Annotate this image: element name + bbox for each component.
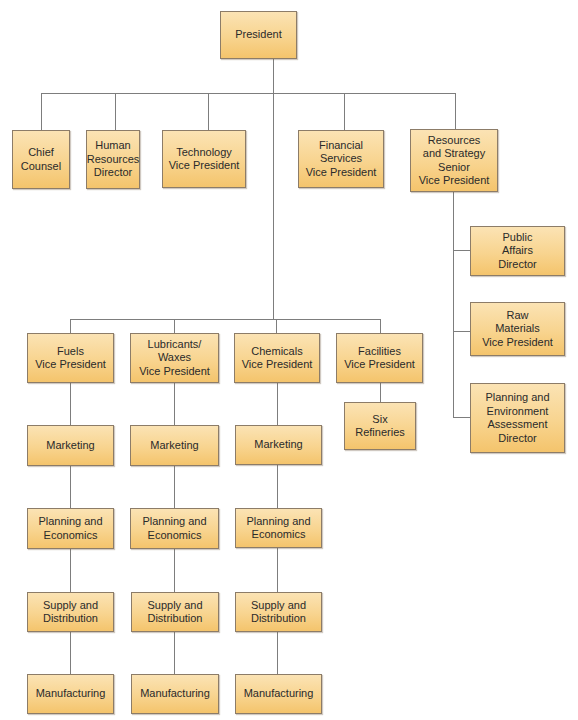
connector-chief-counsel (41, 93, 42, 130)
node-chemicals-vp: Chemicals Vice President (234, 333, 320, 383)
node-facilities-vp: Facilities Vice President (336, 333, 423, 383)
connector-planning-env (453, 417, 470, 418)
connector-fuels (70, 319, 71, 333)
node-fuels-planning: Planning and Economics (27, 508, 114, 549)
node-lubricants-manufacturing: Manufacturing (131, 674, 219, 714)
node-fuels-supply: Supply and Distribution (27, 592, 114, 632)
node-chemicals-planning: Planning and Economics (235, 508, 322, 548)
node-human-resources-director: Human Resources Director (86, 130, 140, 189)
connector-hr (115, 93, 116, 130)
connector-lubricants (174, 319, 175, 333)
node-financial-services-vp: Financial Services Vice President (298, 130, 384, 188)
connector-staff-bar (41, 93, 456, 94)
node-chemicals-supply: Supply and Distribution (235, 592, 322, 632)
node-fuels-vp: Fuels Vice President (27, 333, 114, 383)
node-lubricants-marketing: Marketing (130, 425, 219, 466)
node-fuels-marketing: Marketing (27, 425, 114, 466)
node-resources-strategy-svp: Resources and Strategy Senior Vice Presi… (410, 129, 498, 192)
node-lubricants-waxes-vp: Lubricants/ Waxes Vice President (130, 333, 219, 383)
connector-raw-materials (453, 331, 470, 332)
connector-financial (344, 93, 345, 130)
connector-resources-trunk (453, 191, 454, 418)
node-planning-environment-director: Planning and Environment Assessment Dire… (470, 383, 565, 453)
connector-technology (208, 93, 209, 130)
connector-chemicals (276, 319, 277, 333)
connector-facilities (380, 319, 381, 333)
connector-president-trunk (273, 58, 274, 320)
node-chief-counsel: Chief Counsel (12, 130, 70, 189)
node-lubricants-planning: Planning and Economics (130, 508, 219, 549)
node-lubricants-supply: Supply and Distribution (131, 592, 219, 632)
node-fuels-manufacturing: Manufacturing (27, 674, 114, 714)
node-public-affairs-director: Public Affairs Director (470, 226, 565, 276)
node-six-refineries: Six Refineries (344, 402, 416, 450)
connector-facilities-chain (380, 382, 381, 403)
connector-public-affairs (453, 250, 470, 251)
connector-resources (455, 93, 456, 129)
node-raw-materials-vp: Raw Materials Vice President (470, 302, 565, 356)
node-president: President (220, 11, 297, 59)
connector-division-bar (70, 319, 381, 320)
node-technology-vp: Technology Vice President (162, 130, 246, 188)
node-chemicals-manufacturing: Manufacturing (235, 674, 322, 714)
org-chart: President Chief Counsel Human Resources … (0, 0, 578, 720)
node-chemicals-marketing: Marketing (235, 425, 322, 465)
